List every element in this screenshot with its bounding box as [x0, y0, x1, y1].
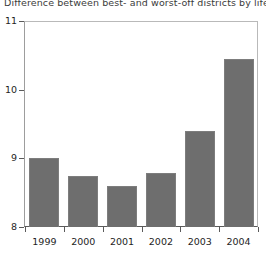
chart-figure: Difference between best- and worst-off d…: [0, 0, 266, 254]
x-tick-label-2002: 2002: [149, 236, 173, 247]
y-tick-mark-9: [19, 158, 24, 159]
y-tick-mark-11: [19, 21, 24, 22]
x-tick-mark-1: [64, 227, 65, 232]
bar-rect: [68, 176, 98, 228]
x-axis: 199920002001200220032004: [0, 227, 266, 254]
chart-title: Difference between best- and worst-off d…: [4, 0, 266, 8]
bar-2001: [107, 21, 137, 227]
x-tick-mark-0: [25, 227, 26, 232]
x-tick-mark-3: [142, 227, 143, 232]
bar-rect: [146, 173, 176, 227]
bar-rect: [107, 186, 137, 227]
bar-2000: [68, 21, 98, 227]
bar-1999: [29, 21, 59, 227]
x-tick-label-2000: 2000: [71, 236, 95, 247]
bar-2003: [185, 21, 215, 227]
x-tick-label-2003: 2003: [188, 236, 212, 247]
bar-2002: [146, 21, 176, 227]
x-tick-mark-4: [180, 227, 181, 232]
x-tick-mark-5: [219, 227, 220, 232]
x-tick-mark-6: [258, 227, 259, 232]
bar-2004: [224, 21, 254, 227]
bar-series-layer: [25, 21, 258, 227]
y-tick-label-9: 9: [11, 153, 17, 163]
bar-rect: [185, 131, 215, 227]
y-tick-label-10: 10: [5, 85, 17, 95]
bar-rect: [224, 59, 254, 227]
y-axis: 891011: [0, 0, 24, 254]
y-tick-mark-10: [19, 90, 24, 91]
x-tick-label-1999: 1999: [32, 236, 56, 247]
x-tick-label-2004: 2004: [226, 236, 250, 247]
x-tick-mark-2: [103, 227, 104, 232]
x-tick-label-2001: 2001: [110, 236, 134, 247]
bar-rect: [29, 158, 59, 227]
y-tick-label-11: 11: [5, 16, 17, 26]
